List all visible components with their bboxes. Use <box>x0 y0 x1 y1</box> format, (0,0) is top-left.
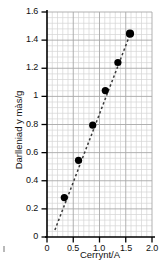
data-point <box>114 59 121 66</box>
x-axis-ticks <box>47 237 152 243</box>
y-axis-ticks <box>42 12 48 237</box>
y-axis-title: Darlleniad y màs/g <box>14 70 24 190</box>
chart-container: 1.6 1.4 1.2 1 0.8 0.6 0.4 0.2 0 0 0.5 1.… <box>0 0 167 266</box>
data-point <box>126 30 134 38</box>
data-point <box>61 194 68 201</box>
data-point <box>102 87 109 94</box>
x-axis-title: Cerrynt/A <box>47 250 153 260</box>
data-point <box>75 157 82 164</box>
y-tick-label: 0 <box>12 232 38 241</box>
page-margin-artifact <box>3 246 5 252</box>
y-tick-label: 0.2 <box>12 204 38 213</box>
y-tick-label: 1.6 <box>12 7 38 16</box>
y-tick-label: 1.4 <box>12 35 38 44</box>
data-point <box>89 122 96 129</box>
